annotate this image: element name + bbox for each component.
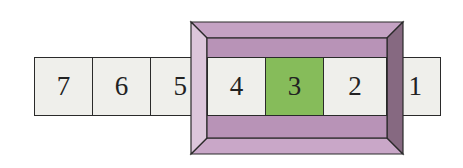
cell-label: 4	[230, 71, 244, 102]
cell-4: 4	[207, 57, 266, 116]
cell-3-highlighted: 3	[265, 57, 324, 116]
cell-2: 2	[323, 57, 387, 116]
cell-label: 3	[288, 71, 302, 102]
cell-label: 2	[348, 71, 362, 102]
